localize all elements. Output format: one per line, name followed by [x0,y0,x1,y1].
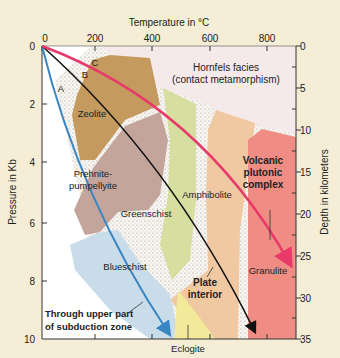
svg-text:0: 0 [29,41,35,52]
svg-text:(contact metamorphism): (contact metamorphism) [172,74,280,85]
path-a-label: A [58,83,65,94]
path-c-label: C [92,57,99,68]
svg-text:6: 6 [29,218,35,229]
pressure-axis-label: Pressure in Kb [7,159,18,225]
svg-text:400: 400 [144,33,161,44]
svg-text:0: 0 [300,41,306,52]
zeolite-label: Zeolite [78,108,107,119]
blueschist-label: Blueschist [103,261,147,272]
hornfels-label: Hornfels facies [193,62,259,73]
svg-text:15: 15 [300,167,312,178]
svg-text:25: 25 [300,251,312,262]
svg-text:20: 20 [300,209,312,220]
subduction-label: Through upper part [45,308,134,319]
svg-text:5: 5 [300,83,306,94]
plate-interior-label: Plate [193,277,217,288]
temperature-axis-label: Temperature in °C [129,17,210,28]
svg-text:complex: complex [243,179,284,190]
svg-text:600: 600 [202,33,219,44]
greenschist-label: Greenschist [121,208,172,219]
svg-text:4: 4 [29,157,35,168]
svg-text:800: 800 [259,33,276,44]
svg-text:plutonic: plutonic [244,167,283,178]
svg-text:10: 10 [24,334,36,345]
path-b-label: B [82,69,88,80]
eclogite-label: Eclogite [171,343,205,354]
svg-text:10: 10 [300,125,312,136]
amphibolite-label: Amphibolite [182,189,232,200]
svg-text:pumpellyite: pumpellyite [69,180,117,191]
granulite-label: Granulite [249,265,288,276]
svg-text:2: 2 [29,99,35,110]
svg-text:30: 30 [300,293,312,304]
volcanic-label: Volcanic [243,155,284,166]
svg-text:35: 35 [300,334,312,345]
svg-text:interior: interior [188,289,223,300]
svg-text:0: 0 [42,33,48,44]
depth-axis-label: Depth in kilometers [319,149,330,235]
svg-text:8: 8 [29,276,35,287]
svg-text:200: 200 [87,33,104,44]
facies-diagram: Temperature in °C 0 200 400 600 800 0 2 … [0,0,340,358]
svg-text:of subduction zone: of subduction zone [45,321,132,332]
prehnite-label: Prehnite- [74,168,113,179]
